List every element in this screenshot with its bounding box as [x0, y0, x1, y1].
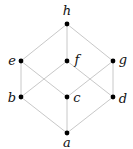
label-c: c: [73, 90, 81, 105]
edge-e-h: [21, 24, 67, 61]
node-h: [65, 22, 70, 27]
label-d: d: [119, 91, 127, 106]
label-a: a: [63, 135, 71, 149]
node-d: [111, 95, 116, 100]
label-e: e: [8, 53, 16, 68]
node-f: [65, 59, 70, 64]
node-g: [111, 59, 116, 64]
node-b: [19, 95, 24, 100]
hasse-diagram: hefgbcda: [0, 0, 133, 149]
node-c: [65, 95, 70, 100]
label-f: f: [74, 52, 82, 67]
label-h: h: [63, 3, 71, 18]
label-g: g: [119, 52, 127, 67]
edge-a-b: [21, 97, 67, 133]
edges: [21, 24, 113, 133]
label-b: b: [8, 90, 16, 105]
node-e: [19, 59, 24, 64]
